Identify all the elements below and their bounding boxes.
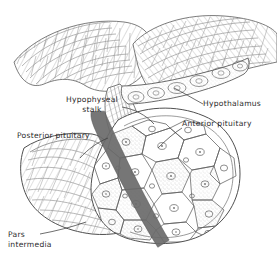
label-hypophyseal-stalk: Hypophyseal stalk	[59, 95, 125, 114]
label-anterior-pituitary: Anterior pituitary	[182, 119, 272, 129]
label-pars-intermedia: Pars intermedia	[8, 230, 64, 249]
label-posterior-pituitary: Posterior pituitary	[17, 131, 109, 141]
figure-canvas: Hypophyseal stalk Hypothalamus Anterior …	[0, 0, 277, 255]
label-hypothalamus: Hypothalamus	[203, 99, 277, 109]
